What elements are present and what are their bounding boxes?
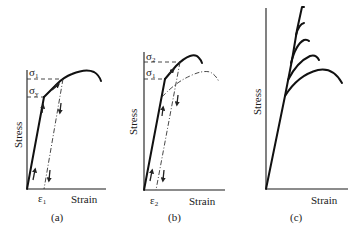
x-axis-label: Strain: [71, 193, 98, 205]
caption-c: (c): [290, 211, 303, 224]
y-axis-label: Stress: [251, 89, 263, 115]
elastic-loading-line: [27, 97, 44, 189]
panel-a: σ1 σy ε1 Strain Stress (a): [12, 66, 106, 224]
plastic-curve: [165, 55, 202, 79]
epsilon2-label: ε2: [150, 194, 159, 208]
original-curve: [162, 72, 219, 98]
unloading-arrow: [163, 170, 164, 180]
unloading-arrow: [49, 170, 50, 180]
loading-arrow: [150, 171, 152, 181]
unloading-line: [156, 62, 180, 190]
unloading-arrow: [177, 95, 178, 104]
epsilon1-label: ε1: [38, 192, 47, 206]
caption-b: (b): [168, 211, 181, 224]
sigma-y-label: σy: [29, 84, 39, 98]
y-axis-label: Stress: [127, 109, 139, 135]
loading-arrow: [33, 170, 35, 180]
unloading-arrow: [60, 103, 61, 112]
sigma1-label: σ1: [29, 66, 39, 80]
panel-b: σ2 σ1 ε2 Strain Stress (b): [127, 50, 225, 224]
elastic-loading-line: [144, 79, 165, 190]
sigma1-label: σ1: [146, 66, 156, 80]
loading-arrow: [162, 108, 163, 116]
panel-c: Strain Stress (c): [251, 7, 348, 224]
y-axis-label: Stress: [12, 122, 24, 148]
sigma2-label: σ2: [146, 50, 156, 64]
x-axis-label: Strain: [189, 195, 216, 207]
x-axis-label: Strain: [311, 194, 338, 206]
elastic-line: [266, 7, 304, 189]
plastic-curve: [44, 70, 101, 97]
curve-branch-1: [285, 70, 342, 96]
caption-a: (a): [51, 211, 64, 224]
stress-strain-diagram: σ1 σy ε1 Strain Stress (a) σ2 σ1 ε2 Stra…: [0, 0, 359, 235]
